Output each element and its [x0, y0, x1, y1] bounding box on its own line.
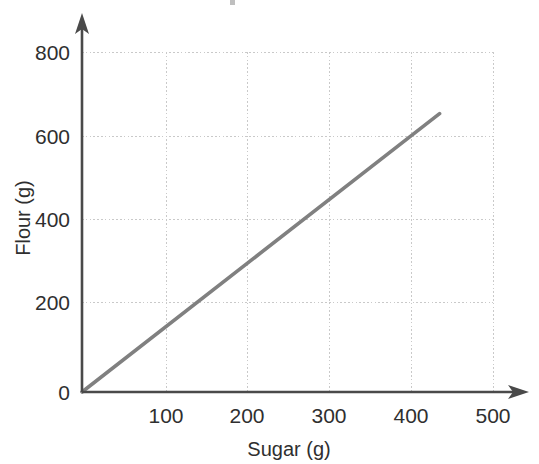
x-axis-title: Sugar (g)	[247, 438, 330, 460]
data-line	[82, 114, 440, 392]
x-tick-label-400: 400	[393, 404, 428, 427]
x-tick-label-300: 300	[311, 404, 346, 427]
horizontal-gridlines	[82, 52, 493, 302]
x-axis	[82, 385, 529, 399]
x-tick-label-100: 100	[148, 404, 183, 427]
x-tick-label-200: 200	[229, 404, 264, 427]
vertical-gridlines	[166, 52, 493, 392]
x-tick-labels: 100 200 300 400 500	[148, 404, 510, 427]
line-chart: 800 600 400 200 0 100 200 300 400 500 Su…	[0, 0, 539, 464]
data-series-flour-vs-sugar	[82, 114, 440, 392]
y-tick-label-600: 600	[35, 125, 70, 148]
chart-container: 800 600 400 200 0 100 200 300 400 500 Su…	[0, 0, 539, 464]
y-tick-label-800: 800	[35, 41, 70, 64]
y-axis	[75, 13, 89, 392]
y-tick-label-200: 200	[35, 291, 70, 314]
y-axis-title: Flour (g)	[12, 180, 34, 256]
scan-artifact	[230, 0, 235, 5]
y-tick-label-400: 400	[35, 208, 70, 231]
x-tick-label-500: 500	[475, 404, 510, 427]
y-tick-labels: 800 600 400 200 0	[35, 41, 70, 404]
y-tick-label-0: 0	[58, 381, 70, 404]
